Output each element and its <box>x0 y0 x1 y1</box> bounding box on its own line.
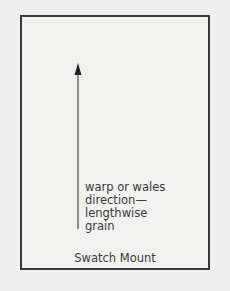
grain-arrow-icon <box>0 0 230 291</box>
swatch-mount-caption: Swatch Mount <box>0 251 230 265</box>
grain-direction-label: warp or wales direction— lengthwise grai… <box>85 181 165 233</box>
label-line-4: grain <box>85 220 165 233</box>
